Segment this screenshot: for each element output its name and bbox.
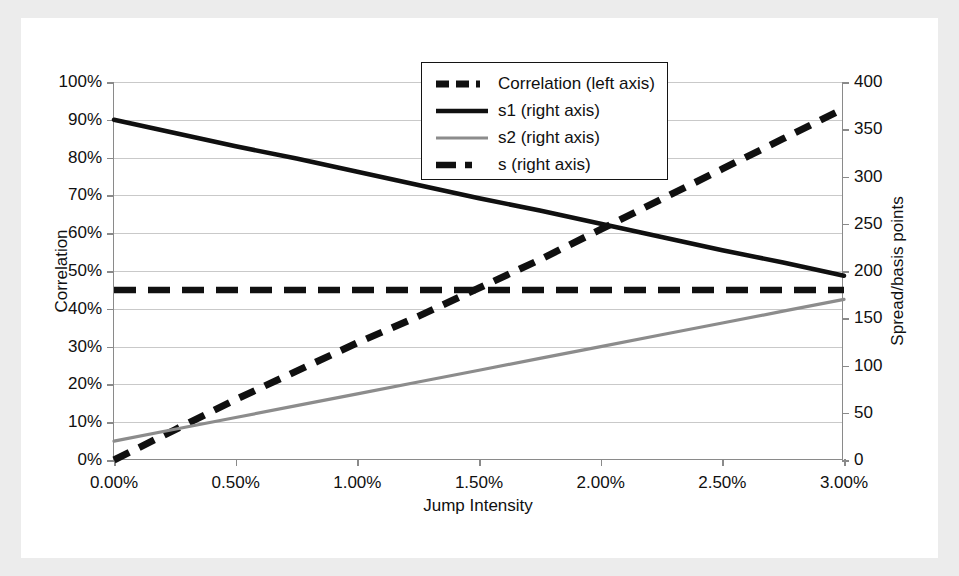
y-axis-left-tick-label: 50%: [68, 261, 102, 281]
figure-frame: Correlation Spread/basis points Jump Int…: [0, 0, 959, 576]
y-axis-right-tick-label: 200: [854, 261, 882, 281]
legend-swatch-icon: [435, 77, 489, 91]
y-axis-left-tick: [107, 195, 114, 197]
x-axis-tick-label: 1.00%: [333, 473, 381, 493]
x-axis-tick-label: 2.00%: [577, 473, 625, 493]
y-axis-left-tick: [107, 422, 114, 424]
y-axis-left-tick-label: 70%: [68, 185, 102, 205]
y-axis-right-tick-label: 250: [854, 214, 882, 234]
y-axis-left-tick: [107, 233, 114, 235]
legend-item-label: s1 (right axis): [498, 101, 600, 121]
y-axis-right-title: Spread/basis points: [887, 82, 909, 460]
x-axis-tick-label: 1.50%: [455, 473, 503, 493]
y-axis-right-tick-label: 50: [854, 403, 873, 423]
y-axis-left-tick-label: 100%: [59, 72, 102, 92]
legend-item-label: s2 (right axis): [498, 128, 600, 148]
y-axis-left-tick: [107, 309, 114, 311]
y-axis-right-tick-label: 100: [854, 356, 882, 376]
legend-item[interactable]: Correlation (left axis): [422, 70, 667, 97]
y-axis-left-tick-label: 10%: [68, 412, 102, 432]
legend-item[interactable]: s (right axis): [422, 151, 667, 178]
x-axis-tick-label: 0.50%: [212, 473, 260, 493]
y-axis-right-tick-label: 400: [854, 72, 882, 92]
legend-swatch-icon: [435, 158, 489, 172]
legend-item-label: Correlation (left axis): [498, 74, 655, 94]
x-axis-tick-label: 0.00%: [90, 473, 138, 493]
legend-box: Correlation (left axis)s1 (right axis)s2…: [421, 62, 668, 180]
x-axis-tick: [236, 459, 238, 466]
y-axis-left-tick-label: 80%: [68, 148, 102, 168]
x-axis-tick: [722, 459, 724, 466]
y-axis-left-tick-label: 20%: [68, 374, 102, 394]
chart-canvas: Correlation Spread/basis points Jump Int…: [21, 18, 938, 558]
y-axis-left-tick-label: 90%: [68, 110, 102, 130]
legend-item-label: s (right axis): [498, 155, 591, 175]
x-axis-tick: [844, 459, 846, 466]
y-axis-left-tick-label: 40%: [68, 299, 102, 319]
y-axis-right-title-text: Spread/basis points: [888, 196, 908, 345]
legend-swatch-icon: [435, 104, 489, 118]
series-line: [114, 299, 844, 441]
y-axis-right-tick-label: 350: [854, 119, 882, 139]
legend-item[interactable]: s1 (right axis): [422, 97, 667, 124]
y-axis-left-tick: [107, 384, 114, 386]
y-axis-left-tick: [107, 460, 114, 462]
y-axis-left-tick: [107, 271, 114, 273]
legend-item[interactable]: s2 (right axis): [422, 124, 667, 151]
x-axis-title: Jump Intensity: [113, 496, 843, 516]
y-axis-right-tick-label: 0: [854, 450, 863, 470]
y-axis-left-tick-label: 0%: [77, 450, 102, 470]
y-axis-left-tick-label: 60%: [68, 223, 102, 243]
y-axis-left-tick: [107, 347, 114, 349]
x-axis-tick: [479, 459, 481, 466]
legend-swatch-icon: [435, 131, 489, 145]
y-axis-right-tick-label: 150: [854, 308, 882, 328]
y-axis-right-tick-label: 300: [854, 167, 882, 187]
x-axis-tick: [357, 459, 359, 466]
x-axis-tick-label: 2.50%: [698, 473, 746, 493]
y-axis-left-tick: [107, 158, 114, 160]
x-axis-tick-label: 3.00%: [820, 473, 868, 493]
y-axis-left-tick: [107, 82, 114, 84]
y-axis-left-tick-label: 30%: [68, 337, 102, 357]
x-axis-tick: [601, 459, 603, 466]
